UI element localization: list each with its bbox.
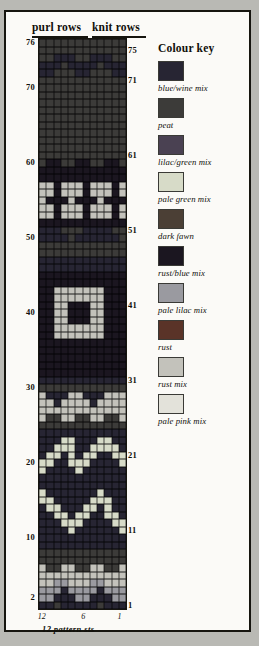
chart-cell	[83, 257, 90, 265]
chart-cell	[39, 467, 46, 475]
chart-cell	[104, 249, 111, 257]
chart-cell	[54, 527, 61, 535]
chart-cell	[61, 249, 68, 257]
chart-cell	[75, 152, 82, 160]
chart-cell	[112, 99, 119, 107]
chart-cell	[39, 474, 46, 482]
chart-cell	[97, 227, 104, 235]
chart-cell	[46, 62, 53, 70]
chart-cell	[97, 482, 104, 490]
chart-cell	[119, 579, 126, 587]
chart-cell	[75, 564, 82, 572]
chart-cell	[119, 549, 126, 557]
chart-cell	[97, 249, 104, 257]
chart-cell	[46, 212, 53, 220]
chart-cell	[54, 242, 61, 250]
chart-cell	[97, 159, 104, 167]
chart-cell	[61, 527, 68, 535]
chart-cell	[61, 482, 68, 490]
chart-cell	[54, 407, 61, 415]
chart-cell	[97, 497, 104, 505]
chart-cell	[54, 122, 61, 130]
chart-cell	[68, 354, 75, 362]
chart-cell	[112, 62, 119, 70]
chart-cell	[83, 572, 90, 580]
chart-cell	[61, 459, 68, 467]
chart-cell	[112, 92, 119, 100]
chart-cell	[61, 62, 68, 70]
chart-cell	[61, 324, 68, 332]
chart-cell	[97, 182, 104, 190]
chart-cell	[39, 557, 46, 565]
chart-cell	[54, 587, 61, 595]
chart-cell	[46, 444, 53, 452]
chart-cell	[104, 392, 111, 400]
chart-cell	[46, 339, 53, 347]
chart-cell	[112, 399, 119, 407]
chart-cell	[39, 534, 46, 542]
chart-cell	[112, 324, 119, 332]
chart-cell	[75, 422, 82, 430]
chart-cell	[61, 474, 68, 482]
chart-cell	[104, 114, 111, 122]
chart-cell	[104, 459, 111, 467]
chart-cell	[61, 309, 68, 317]
chart-cell	[39, 62, 46, 70]
knit-row-numbers: 75716151413121111	[128, 38, 154, 608]
chart-cell	[68, 572, 75, 580]
chart-cell	[61, 227, 68, 235]
chart-cell	[97, 287, 104, 295]
chart-cell	[83, 249, 90, 257]
chart-cell	[112, 414, 119, 422]
chart-cell	[54, 77, 61, 85]
chart-cell	[75, 527, 82, 535]
pattern-grid	[39, 39, 126, 609]
chart-cell	[83, 399, 90, 407]
chart-cell	[46, 384, 53, 392]
chart-cell	[97, 384, 104, 392]
chart-cell	[90, 212, 97, 220]
chart-cell	[90, 272, 97, 280]
chart-cell	[61, 549, 68, 557]
chart-cell	[61, 437, 68, 445]
chart-cell	[39, 129, 46, 137]
row-number-right: 1	[128, 600, 133, 610]
chart-cell	[54, 324, 61, 332]
chart-cell	[46, 234, 53, 242]
chart-cell	[90, 167, 97, 175]
chart-cell	[46, 489, 53, 497]
chart-cell	[54, 317, 61, 325]
chart-cell	[46, 482, 53, 490]
chart-cell	[39, 279, 46, 287]
chart-cell	[54, 459, 61, 467]
chart-cell	[61, 92, 68, 100]
chart-cell	[97, 129, 104, 137]
chart-cell	[119, 512, 126, 520]
chart-cell	[68, 219, 75, 227]
chart-cell	[39, 47, 46, 55]
chart-cell	[75, 549, 82, 557]
chart-cell	[46, 302, 53, 310]
chart-cell	[104, 414, 111, 422]
chart-cell	[68, 332, 75, 340]
chart-cell	[39, 39, 46, 47]
chart-cell	[46, 407, 53, 415]
chart-cell	[61, 362, 68, 370]
chart-cell	[61, 279, 68, 287]
chart-cell	[39, 587, 46, 595]
chart-cell	[68, 272, 75, 280]
chart-cell	[61, 579, 68, 587]
chart-cell	[90, 339, 97, 347]
chart-cell	[39, 422, 46, 430]
chart-cell	[46, 579, 53, 587]
chart-cell	[61, 542, 68, 550]
row-number-right: 11	[128, 525, 137, 535]
chart-cell	[68, 482, 75, 490]
chart-cell	[104, 272, 111, 280]
chart-cell	[46, 392, 53, 400]
chart-cell	[119, 459, 126, 467]
chart-cell	[83, 482, 90, 490]
colour-key-entry: pale pink mix	[158, 394, 250, 426]
chart-cell	[83, 407, 90, 415]
chart-cell	[104, 54, 111, 62]
